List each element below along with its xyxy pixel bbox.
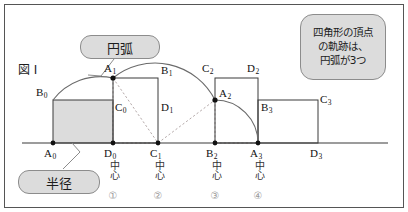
label-C1: C1 xyxy=(150,148,162,159)
label-D1: D1 xyxy=(161,102,173,113)
rect-A0B0C0D0 xyxy=(53,100,113,143)
callout-radius-text: 半径 xyxy=(46,173,72,192)
callout-locus: 四角形の頂点 の軌跡は、 円弧が3つ xyxy=(300,14,386,80)
label-C2: C2 xyxy=(202,63,214,74)
label-A3: A3 xyxy=(250,148,262,159)
center-kanji-3: 中心 xyxy=(210,160,220,180)
center-number-1: ① xyxy=(104,190,122,201)
rectangle-outlines xyxy=(113,78,318,143)
leader-radius-line xyxy=(63,143,80,169)
label-A2: A2 xyxy=(219,88,231,99)
label-C3: C3 xyxy=(320,94,332,105)
center-kanji-2: 中心 xyxy=(153,160,163,180)
center-number-2: ② xyxy=(149,190,167,201)
callout-radius: 半径 xyxy=(18,170,100,194)
arc-1-A0-to-A1 xyxy=(53,77,113,100)
callout-arc: 円弧 xyxy=(80,35,160,59)
dot-C1 xyxy=(156,141,161,146)
label-B0: B0 xyxy=(36,87,48,98)
figure-canvas: 図 I 円弧 半径 四角形の頂点 の軌跡は、 円弧が3つ A0 B0 C0 D0… xyxy=(0,0,408,212)
label-B2: B2 xyxy=(206,148,218,159)
center-word-1: 中心 xyxy=(104,160,122,182)
dot-B2 xyxy=(213,141,218,146)
center-number-3: ③ xyxy=(206,190,224,201)
center-word-3: 中心 xyxy=(206,160,224,182)
label-B3: B3 xyxy=(261,102,273,113)
dot-A2 xyxy=(212,97,217,102)
center-kanji-4: 中心 xyxy=(253,160,263,180)
label-B1: B1 xyxy=(161,65,173,76)
callout-locus-line-2: の軌跡は、 xyxy=(318,40,368,54)
center-kanji-1: 中心 xyxy=(108,160,118,180)
center-word-2: 中心 xyxy=(149,160,167,182)
construction-dashes xyxy=(113,78,258,143)
label-C0: C0 xyxy=(115,102,127,113)
center-number-4: ④ xyxy=(249,190,267,201)
label-D0: D0 xyxy=(104,148,116,159)
label-D2: D2 xyxy=(247,63,259,74)
center-word-4: 中心 xyxy=(249,160,267,182)
callout-locus-line-1: 四角形の頂点 xyxy=(313,26,373,40)
arc-3-A2-to-A3 xyxy=(215,100,258,143)
dot-A1 xyxy=(110,75,115,80)
figure-label: 図 I xyxy=(18,60,37,77)
label-A0: A0 xyxy=(44,148,56,159)
callout-locus-line-3: 円弧が3つ xyxy=(320,54,367,68)
callout-arc-text: 円弧 xyxy=(107,38,133,57)
label-D3: D3 xyxy=(310,148,322,159)
dot-D0 xyxy=(111,141,116,146)
dot-A0 xyxy=(51,141,56,146)
label-A1: A1 xyxy=(104,63,116,74)
dot-A3 xyxy=(256,141,261,146)
